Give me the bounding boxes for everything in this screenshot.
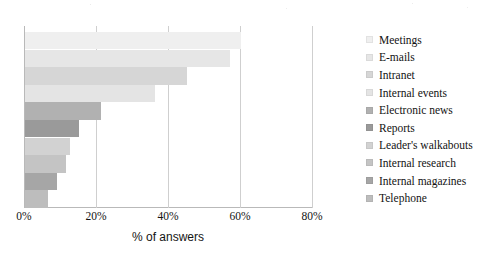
legend-swatch-icon xyxy=(366,177,373,184)
bar-electronic-news xyxy=(25,102,101,119)
legend-swatch-icon xyxy=(366,124,373,131)
bar-e-mails xyxy=(25,50,230,67)
x-tick-label: 0% xyxy=(16,210,31,222)
legend-swatch-icon xyxy=(366,107,373,114)
legend-item-internal-magazines: Internal magazines xyxy=(366,172,501,190)
legend-label: Leader's walkabouts xyxy=(379,139,473,151)
bar-series xyxy=(25,32,312,208)
legend-item-internal-research: Internal research xyxy=(366,154,501,172)
bar-internal-events xyxy=(25,85,155,102)
legend-swatch-icon xyxy=(366,36,373,43)
bar-telephone xyxy=(25,190,48,207)
legend: MeetingsE-mailsIntranetInternal eventsEl… xyxy=(366,31,501,207)
x-tick-label: 20% xyxy=(85,210,106,222)
x-axis-tick-labels: 0%20%40%60%80% xyxy=(24,210,312,228)
legend-item-electronic-news: Electronic news xyxy=(366,101,501,119)
legend-label: Intranet xyxy=(379,69,415,81)
legend-swatch-icon xyxy=(366,142,373,149)
legend-swatch-icon xyxy=(366,54,373,61)
bar-meetings xyxy=(25,32,241,49)
bar-intranet xyxy=(25,67,187,84)
legend-item-intranet: Intranet xyxy=(366,66,501,84)
legend-swatch-icon xyxy=(366,159,373,166)
legend-label: Telephone xyxy=(379,192,427,204)
legend-swatch-icon xyxy=(366,71,373,78)
legend-label: Internal magazines xyxy=(379,175,466,187)
x-tick-label: 80% xyxy=(301,210,322,222)
legend-swatch-icon xyxy=(366,195,373,202)
scan-artifact xyxy=(0,0,503,12)
legend-item-reports: Reports xyxy=(366,119,501,137)
legend-item-e-mails: E-mails xyxy=(366,49,501,67)
plot-area xyxy=(24,26,312,208)
legend-label: Internal research xyxy=(379,157,456,169)
x-axis-title: % of answers xyxy=(24,230,312,244)
x-tick-label: 40% xyxy=(157,210,178,222)
legend-swatch-icon xyxy=(366,89,373,96)
bar-reports xyxy=(25,120,79,137)
legend-label: Internal events xyxy=(379,87,447,99)
legend-item-meetings: Meetings xyxy=(366,31,501,49)
legend-item-internal-events: Internal events xyxy=(366,84,501,102)
legend-label: Reports xyxy=(379,122,415,134)
bar-chart: 0%20%40%60%80% % of answers MeetingsE-ma… xyxy=(0,0,503,260)
legend-label: E-mails xyxy=(379,51,415,63)
bar-internal-research xyxy=(25,155,66,172)
legend-item-telephone: Telephone xyxy=(366,189,501,207)
legend-item-leader-s-walkabouts: Leader's walkabouts xyxy=(366,137,501,155)
gridline-80 xyxy=(312,26,313,208)
bar-leader-s-walkabouts xyxy=(25,138,70,155)
legend-label: Electronic news xyxy=(379,104,453,116)
legend-label: Meetings xyxy=(379,34,422,46)
x-tick-label: 60% xyxy=(229,210,250,222)
bar-internal-magazines xyxy=(25,173,57,190)
